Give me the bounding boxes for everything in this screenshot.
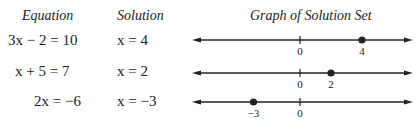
tick-label: 2 bbox=[328, 78, 334, 90]
solution-point bbox=[250, 98, 257, 105]
left-arrow-icon bbox=[192, 38, 201, 43]
solution-point bbox=[327, 69, 334, 76]
tick-label: −3 bbox=[248, 107, 260, 119]
tick-label: 0 bbox=[297, 107, 303, 119]
right-arrow-icon bbox=[404, 38, 413, 43]
tick-label: 4 bbox=[359, 45, 365, 57]
left-arrow-icon bbox=[192, 71, 201, 76]
left-arrow-icon bbox=[192, 100, 201, 105]
solution-point bbox=[358, 36, 365, 43]
number-lines: 0402−30 bbox=[0, 0, 419, 128]
tick-label: 0 bbox=[297, 45, 303, 57]
right-arrow-icon bbox=[404, 100, 413, 105]
tick-label: 0 bbox=[297, 78, 303, 90]
right-arrow-icon bbox=[404, 71, 413, 76]
